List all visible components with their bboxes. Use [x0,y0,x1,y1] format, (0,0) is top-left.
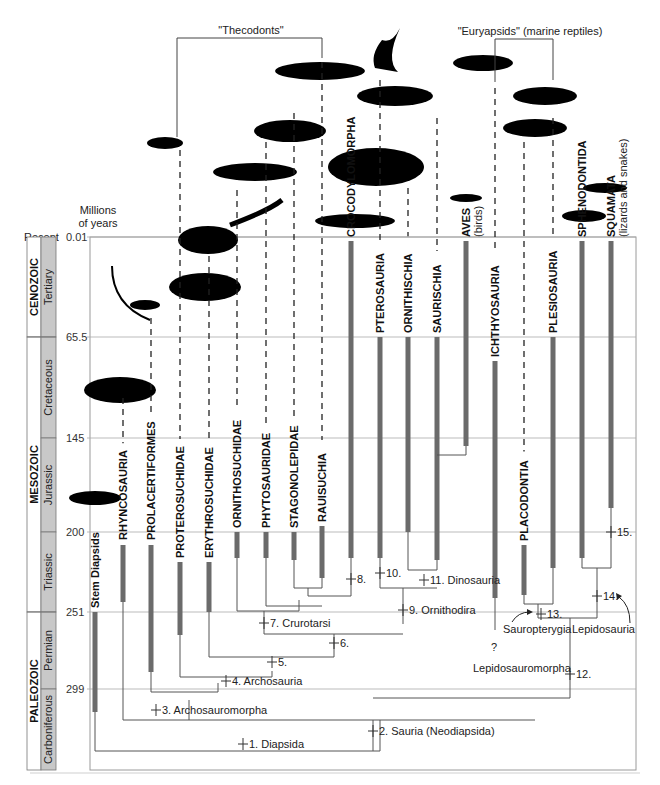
placodont-silhouette [503,119,567,137]
prolacertiform-silhouette [147,137,183,149]
taxon-range-bar [207,562,212,612]
taxon-range-bar [235,532,240,558]
period-label-triassic: Triassic [42,553,54,591]
time-tick-label: 65.5 [66,331,87,343]
taxon-range-bar [522,545,527,595]
rhyncosaur2-silhouette [84,377,156,403]
taxon-label: ORNITHOSUCHIDAE [231,420,243,528]
axis-title-line2: of years [78,217,118,229]
taxon-range-bar [609,241,614,508]
taxon-range-bar [349,241,354,558]
clade-connector [308,558,351,596]
node-label: 11. Dinosauria [430,574,501,586]
taxon-range-bar [320,526,325,578]
taxon-label: ICHTHYOSAURIA [489,265,501,357]
time-tick-label: 0.01 [66,231,87,243]
clade-connector [437,446,466,455]
erythrosuchid-silhouette [178,226,238,254]
node-label: 10. [386,567,401,579]
node-label: 13. [547,608,562,620]
taxon-label: AVES [460,208,472,237]
clade-connector [95,712,380,751]
euryapsids-label: "Euryapsids" (marine reptiles) [458,25,603,37]
plesiosaur-silhouette [513,87,577,105]
taxon-range-bar [264,532,269,558]
period-label-permian: Permian [42,630,54,671]
ichthyosaur-silhouette [453,55,513,71]
arrowhead-icon [527,609,533,615]
clade-connector [294,560,322,588]
period-label-jurassic: Jurassic [42,464,54,505]
ceratopsian-silhouette [328,148,424,186]
taxon-label: SPHENODONTIDA [576,140,588,237]
taxon-range-bar [149,545,154,672]
phylogeny-figure: Millionsof yearsRecentCENOZOICMESOZOICPA… [0,0,660,785]
era-label-paleozoic: PALEOZOIC [28,659,40,722]
taxon-label: PROTEROSUCHIDAE [174,446,186,558]
taxon-range-bar [292,532,297,560]
taxon-range-bar [378,337,383,558]
taxon-range-bar [406,337,411,532]
taxon-sublabel: (lizards and snakes) [617,139,629,237]
sauropterygia-label: Sauropterygia [503,623,572,635]
taxon-range-bar [435,337,440,560]
node-label: 14. [603,590,618,602]
taxon-label: ERYTHROSUCHIDAE [203,447,215,558]
taxon-label: ORNITHISCHIA [402,254,414,334]
taxon-range-bar [464,241,469,446]
stem-diapsid-silhouette [69,491,121,505]
tanystropheus-silhouette [112,266,150,320]
time-tick-label: 251 [66,606,84,618]
node-label: 12. [576,668,591,680]
node-label: 7. Crurotarsi [270,617,331,629]
clade-connector [408,532,437,570]
lepidosauromorpha-label: Lepidosauromorpha [473,662,572,674]
lepidosauria-label: Lepidosauria [572,623,636,635]
axis-title-line1: Millions [80,204,117,216]
node-label: 8. [357,573,366,585]
taxon-label: PROLACERTIFORMES [145,421,157,540]
taxon-label: STAGONOLEPIDAE [288,426,300,528]
time-tick-label: 200 [66,526,84,538]
taxon-label: RHYNCOSAURIA [117,450,129,540]
taxon-label: PTEROSAURIA [374,253,386,333]
bird-silhouette [450,194,482,202]
node-label: 9. Ornithodira [409,604,477,616]
taxon-sublabel: (birds) [472,206,484,237]
ornithosuchid-silhouette [213,163,297,181]
node-label: 15. [617,526,632,538]
node-label: 5. [278,656,287,668]
taxon-label: PHYTOSAURIDAE [260,433,272,528]
node-label: 3. Archosauromorpha [162,704,268,716]
clade-connector [524,568,553,604]
taxon-range-bar [178,562,183,635]
period-label-tertiary: Tertiary [42,268,54,305]
taxon-range-bar [121,545,126,602]
taxon-range-bar [551,337,556,568]
taxon-label: SAURISCHIA [431,264,443,333]
node-label: 6. [340,637,349,649]
taxon-label: CROCODYLOMORPHA [345,117,357,237]
annotations: ?SauropterygiaLepidosauriaLepidosauromor… [473,593,636,674]
phytosaur-silhouette [254,120,326,142]
node-label: 4. Archosauria [232,675,303,687]
prolacertid-silhouette [130,300,160,310]
taxon-label: PLESIOSAURIA [547,250,559,333]
taxon-label: RAUISUCHIA [316,453,328,522]
theropod-silhouette [357,86,433,106]
era-label-cenozoic: CENOZOIC [28,258,40,316]
taxon-range-bar [580,241,585,558]
erythrosuchid-tail [230,200,282,225]
question-mark: ? [491,641,497,653]
clade-connector [180,635,272,677]
pterosaur-silhouette [374,28,400,72]
clade-connector [582,508,611,568]
clade-connector [237,558,299,611]
taxon-label: Stem Diapsids [89,532,101,608]
period-label-carboniferous: Carboniferous [42,694,54,764]
time-tick-label: 145 [66,432,84,444]
taxon-range-bar [93,612,98,712]
thecodonts-label: "Thecodonts" [218,24,283,36]
time-tick-label: 299 [66,683,84,695]
taxon-label: SQUAMATA [605,175,617,237]
